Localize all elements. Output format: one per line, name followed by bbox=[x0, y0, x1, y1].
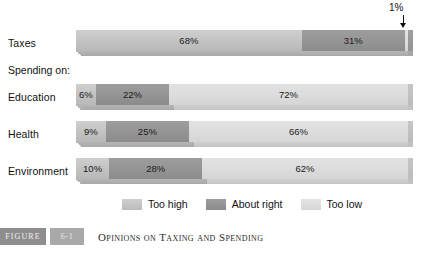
stacked-bar-taxes: 68% 31% bbox=[76, 30, 408, 56]
bar-corner-joint bbox=[408, 105, 413, 110]
figure-caption-bar: FIGURE 6-1 Opinions on Taxing and Spendi… bbox=[0, 228, 421, 245]
segment-value-label: 66% bbox=[289, 127, 308, 137]
bar-right-face bbox=[408, 158, 413, 179]
figure-opinions-on-taxing-and-spending: 1% Spending on: Taxes 68% 31% bbox=[0, 0, 421, 258]
group-label-spending-on: Spending on: bbox=[8, 64, 70, 76]
bar-corner-joint bbox=[408, 179, 413, 184]
legend-swatch-too-low bbox=[301, 199, 321, 210]
segment-too-high-health: 9% bbox=[76, 121, 106, 142]
segment-about-right-environment: 28% bbox=[109, 158, 202, 179]
stacked-bar-environment: 10% 28% 62% bbox=[76, 158, 408, 184]
legend-label-too-high: Too high bbox=[148, 198, 188, 210]
segment-value-label: 6% bbox=[79, 90, 93, 100]
bar-bottom-face-dark bbox=[81, 105, 174, 110]
bar-right-face bbox=[408, 121, 413, 142]
bar-row-education: Education 6% 22% 72% bbox=[0, 80, 421, 114]
legend-swatch-too-high bbox=[122, 199, 142, 210]
bar-bottom-left-joint bbox=[76, 179, 81, 184]
segment-too-high-environment: 10% bbox=[76, 158, 109, 179]
bar-row-environment: Environment 10% 28% 62% bbox=[0, 154, 421, 188]
row-label-education: Education bbox=[8, 80, 74, 114]
bar-bottom-left-joint bbox=[76, 51, 81, 56]
legend-label-too-low: Too low bbox=[327, 198, 363, 210]
segment-value-label: 62% bbox=[296, 164, 315, 174]
legend-swatch-about-right bbox=[206, 199, 226, 210]
caption-figure-number: 6-1 bbox=[50, 228, 84, 245]
caption-title: Opinions on Taxing and Spending bbox=[84, 228, 421, 245]
bar-segments-education: 6% 22% 72% bbox=[76, 84, 408, 105]
segment-about-right-taxes: 31% bbox=[302, 30, 405, 51]
segment-value-label: 31% bbox=[344, 36, 363, 46]
segment-value-label: 28% bbox=[146, 164, 165, 174]
segment-too-low-health: 66% bbox=[189, 121, 408, 142]
bar-corner-joint bbox=[408, 51, 413, 56]
segment-about-right-education: 22% bbox=[96, 84, 169, 105]
bar-segments-taxes: 68% 31% bbox=[76, 30, 408, 51]
bar-segments-health: 9% 25% 66% bbox=[76, 121, 408, 142]
legend-item-too-high: Too high bbox=[122, 198, 188, 210]
chart-legend: Too high About right Too low bbox=[0, 196, 421, 212]
segment-value-label: 9% bbox=[84, 127, 98, 137]
segment-value-label: 22% bbox=[123, 90, 142, 100]
bar-bottom-face-dark bbox=[81, 179, 207, 184]
bar-bottom-face-dark bbox=[81, 142, 194, 147]
bar-right-face bbox=[408, 30, 413, 51]
bar-bottom-left-joint bbox=[76, 105, 81, 110]
bar-row-health: Health 9% 25% 66% bbox=[0, 117, 421, 151]
legend-label-about-right: About right bbox=[232, 198, 283, 210]
legend-item-too-low: Too low bbox=[301, 198, 363, 210]
segment-too-high-education: 6% bbox=[76, 84, 96, 105]
bar-bottom-left-joint bbox=[76, 142, 81, 147]
segment-value-label: 72% bbox=[279, 90, 298, 100]
bar-right-face bbox=[408, 84, 413, 105]
row-label-health: Health bbox=[8, 117, 74, 151]
row-label-taxes: Taxes bbox=[8, 26, 74, 60]
segment-about-right-health: 25% bbox=[106, 121, 189, 142]
segment-value-label: 25% bbox=[138, 127, 157, 137]
segment-value-label: 10% bbox=[83, 164, 102, 174]
caption-figure-word: FIGURE bbox=[0, 228, 46, 245]
legend-item-about-right: About right bbox=[206, 198, 283, 210]
callout-label: 1% bbox=[389, 3, 403, 13]
stacked-bar-education: 6% 22% 72% bbox=[76, 84, 408, 110]
chart-plot-area: 1% Spending on: Taxes 68% 31% bbox=[0, 0, 421, 190]
segment-too-low-environment: 62% bbox=[202, 158, 408, 179]
segment-value-label: 68% bbox=[179, 36, 198, 46]
bar-corner-joint bbox=[408, 142, 413, 147]
bar-row-taxes: Taxes 68% 31% bbox=[0, 26, 421, 60]
segment-too-low-taxes bbox=[405, 30, 408, 51]
segment-too-high-taxes: 68% bbox=[76, 30, 302, 51]
bar-segments-environment: 10% 28% 62% bbox=[76, 158, 408, 179]
stacked-bar-health: 9% 25% 66% bbox=[76, 121, 408, 147]
segment-too-low-education: 72% bbox=[169, 84, 408, 105]
row-label-environment: Environment bbox=[8, 154, 74, 188]
bar-bottom-face bbox=[81, 51, 413, 56]
